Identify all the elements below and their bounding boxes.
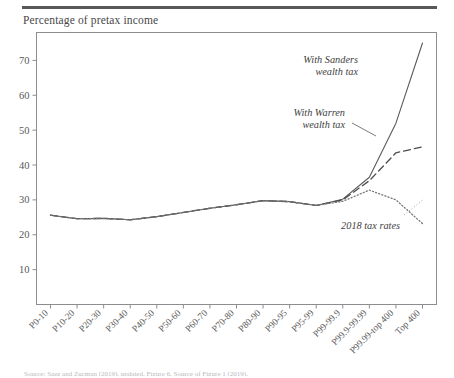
figure-caption: Source: Saez and Zucman (2019), updated.… — [24, 370, 436, 376]
x-tick-label: P30-40 — [104, 308, 130, 334]
x-tick-label: P60-70 — [183, 308, 209, 334]
figure-container: Percentage of pretax income 102030405060… — [0, 0, 454, 378]
y-tick-label: 20 — [19, 229, 30, 240]
x-tick-label: P10-20 — [50, 308, 76, 334]
warren-leader-line — [352, 123, 376, 136]
series-annotation: With Sanderswealth tax — [303, 54, 358, 77]
y-tick-label: 30 — [19, 194, 30, 205]
y-tick-label: 60 — [19, 90, 30, 101]
y-tick-label: 40 — [19, 160, 30, 171]
x-axis-ticks: P0-10P10-20P20-30P30-40P40-50P50-60P60-7… — [27, 305, 422, 356]
x-tick-label: P70-80 — [210, 308, 236, 334]
line-chart: 10203040506070 P0-10P10-20P20-30P30-40P4… — [0, 0, 454, 378]
y-tick-label: 10 — [19, 264, 30, 275]
x-tick-label: Top 400 — [393, 308, 422, 337]
series-annotation: 2018 tax rates — [341, 220, 400, 231]
series-annotation: With Warrenwealth tax — [293, 107, 345, 130]
x-tick-label: P40-50 — [130, 308, 156, 334]
y-tick-label: 50 — [19, 125, 30, 136]
x-tick-label: P80-90 — [236, 308, 262, 334]
plot-frame — [37, 33, 437, 305]
tax-rates-leader-line — [404, 199, 424, 215]
y-axis-ticks: 10203040506070 — [19, 55, 37, 275]
x-tick-label: P90-95 — [263, 308, 289, 334]
x-tick-label: P0-10 — [27, 308, 50, 331]
series-layer — [51, 43, 423, 224]
series-line-dotted — [51, 190, 423, 223]
series-line-dashed — [51, 147, 423, 220]
x-tick-label: P50-60 — [157, 308, 183, 334]
y-tick-label: 70 — [19, 55, 30, 66]
x-tick-label: P20-30 — [77, 308, 103, 334]
